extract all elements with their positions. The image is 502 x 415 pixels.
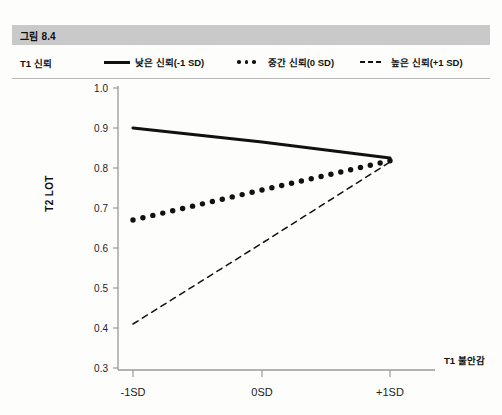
data-point [358, 165, 363, 170]
data-point [160, 210, 165, 215]
chart-container: T2 LOT T1 불안감 1.00.90.80.70.60.50.40.3-1… [0, 78, 502, 415]
y-axis-tick-label: 0.7 [94, 203, 108, 214]
figure-caption-band: 그림 8.4 [12, 25, 490, 45]
legend-item-label: 중간 신뢰(0 SD) [268, 55, 334, 69]
series-solid [133, 128, 390, 158]
series-dotted [130, 158, 392, 223]
line-chart-plot: 1.00.90.80.70.60.50.40.3-1SD0SD+1SD [0, 78, 502, 415]
data-point [220, 197, 225, 202]
data-point [299, 178, 304, 183]
solid-line-icon [104, 57, 130, 67]
data-point [180, 206, 185, 211]
legend-item-mid-trust[interactable]: 중간 신뢰(0 SD) [237, 54, 334, 70]
data-point [279, 183, 284, 188]
legend-item-low-trust[interactable]: 낮은 신뢰(-1 SD) [104, 54, 204, 70]
data-point [239, 192, 244, 197]
x-axis-tick-label: 0SD [251, 386, 272, 398]
legend-item-label: 높은 신뢰(+1 SD) [391, 55, 463, 69]
y-axis-tick-label: 0.5 [94, 283, 108, 294]
data-point [170, 208, 175, 213]
chart-legend: T1 신뢰 낮은 신뢰(-1 SD) 중간 신뢰(0 SD) 높은 신뢰(+1 … [12, 52, 490, 74]
data-point [190, 203, 195, 208]
x-axis-title: T1 불안감 [444, 353, 485, 367]
data-point [150, 213, 155, 218]
data-point [348, 167, 353, 172]
legend-title: T1 신뢰 [20, 56, 52, 70]
data-point [328, 172, 333, 177]
figure-number-label: 그림 8.4 [12, 28, 56, 43]
dotted-line-icon [237, 57, 263, 67]
x-axis-tick-label: +1SD [376, 386, 404, 398]
y-axis-tick-label: 0.4 [94, 323, 108, 334]
data-point [318, 174, 323, 179]
y-axis-tick-label: 1.0 [94, 83, 108, 94]
x-axis-tick-label: -1SD [120, 386, 145, 398]
data-point [269, 185, 274, 190]
data-point [289, 181, 294, 186]
data-point [210, 199, 215, 204]
data-point [368, 163, 373, 168]
data-point [377, 160, 382, 165]
data-point [200, 201, 205, 206]
y-axis-title: T2 LOT [44, 144, 55, 244]
data-point [230, 194, 235, 199]
y-axis-tick-label: 0.3 [94, 363, 108, 374]
data-point [338, 169, 343, 174]
data-point [140, 215, 145, 220]
y-axis-tick-label: 0.9 [94, 123, 108, 134]
y-axis-tick-label: 0.6 [94, 243, 108, 254]
data-point [130, 217, 135, 222]
data-point [309, 176, 314, 181]
data-point [249, 190, 254, 195]
legend-item-label: 낮은 신뢰(-1 SD) [135, 55, 204, 69]
data-point [259, 187, 264, 192]
y-axis-tick-label: 0.8 [94, 163, 108, 174]
series-dashed [133, 162, 390, 324]
dashed-line-icon [360, 57, 386, 67]
legend-item-high-trust[interactable]: 높은 신뢰(+1 SD) [360, 54, 463, 70]
